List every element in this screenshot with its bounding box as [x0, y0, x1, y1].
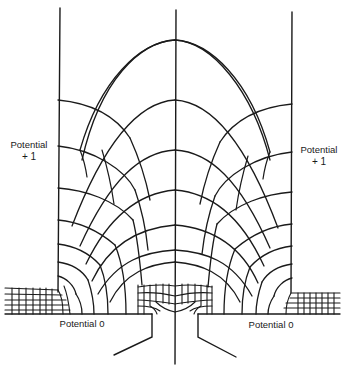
label-right-potential-text: Potential — [301, 144, 338, 155]
label-right-potential-zero: Potential 0 — [238, 319, 304, 331]
label-right-potential-plus-one: Potential + 1 — [293, 144, 345, 168]
left-slot-grid — [5, 286, 70, 314]
flux-plot-diagram: Potential + 1 Potential + 1 Potential 0 … — [0, 0, 346, 376]
label-left-potential-zero: Potential 0 — [52, 318, 112, 330]
label-right-potential-value: + 1 — [293, 156, 345, 168]
label-left-potential-value: + 1 — [4, 151, 54, 163]
left-field-mesh — [58, 40, 175, 314]
electrode-boundaries — [5, 8, 340, 364]
right-field-mesh — [175, 40, 292, 314]
label-left-potential-plus-one: Potential + 1 — [4, 139, 54, 163]
right-slot-grid — [284, 293, 340, 314]
label-left-potential-text: Potential — [11, 139, 48, 150]
equipotential-lines — [56, 40, 292, 236]
